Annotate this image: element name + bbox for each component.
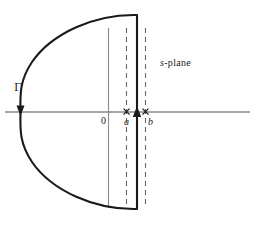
s-plane-contour-figure: Γ 0 a b s-plane — [0, 0, 261, 237]
contour-diagram-svg — [0, 0, 261, 237]
point-a-label: a — [124, 117, 129, 127]
s-plane-label-suffix: -plane — [164, 57, 191, 68]
gamma-contour-label: Γ — [14, 82, 22, 93]
gamma-arc-direction-arrowhead — [17, 106, 25, 117]
s-plane-label: s-plane — [160, 58, 191, 68]
origin-label: 0 — [101, 116, 106, 126]
point-b-label: b — [148, 117, 153, 127]
